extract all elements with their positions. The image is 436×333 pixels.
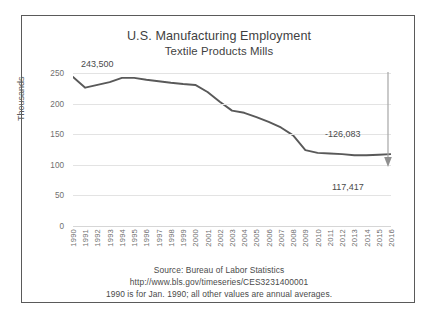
x-tick-1996: 1996 (142, 229, 151, 247)
annotation-change-value: -126,083 (325, 129, 361, 139)
x-tick-2001: 2001 (204, 229, 213, 247)
x-tick-1994: 1994 (118, 229, 127, 247)
x-tick-1991: 1991 (81, 229, 90, 247)
y-tick-100: 100 (24, 160, 64, 169)
series-line-textile-products-mills (73, 73, 391, 226)
annotation-start-value: 243,500 (81, 59, 114, 69)
x-tick-2011: 2011 (326, 229, 335, 246)
chart-frame: U.S. Manufacturing Employment Textile Pr… (21, 15, 415, 303)
x-tick-2004: 2004 (240, 229, 249, 247)
x-tick-2003: 2003 (228, 229, 237, 247)
x-tick-2012: 2012 (338, 229, 347, 247)
x-tick-2016: 2016 (387, 229, 396, 247)
gridline-200 (73, 104, 391, 105)
x-tick-2014: 2014 (363, 229, 372, 247)
y-tick-200: 200 (24, 99, 64, 108)
chart-subtitle: Textile Products Mills (22, 45, 416, 57)
x-tick-2015: 2015 (375, 229, 384, 247)
gridline-250 (73, 73, 391, 74)
x-tick-2007: 2007 (277, 229, 286, 247)
x-axis-tick-labels: 1990199119921993199419951996199719981999… (73, 229, 391, 269)
x-tick-2002: 2002 (216, 229, 225, 247)
x-tick-2013: 2013 (350, 229, 359, 247)
y-axis-tick-labels: 250 200 150 100 50 0 (22, 73, 68, 226)
footnote-source: Source: Bureau of Labor Statistics (22, 264, 416, 276)
gridline-100 (73, 165, 391, 166)
x-tick-2008: 2008 (289, 229, 298, 247)
footnote-block: Source: Bureau of Labor Statistics http:… (22, 264, 416, 300)
x-tick-1995: 1995 (130, 229, 139, 247)
page-title: U.S. Manufacturing Employment (22, 29, 416, 43)
plot-area (73, 73, 391, 226)
x-tick-2010: 2010 (314, 229, 323, 247)
x-tick-1992: 1992 (93, 229, 102, 247)
footnote-url: http://www.bls.gov/timeseries/CES3231400… (22, 276, 416, 288)
gridline-50 (73, 195, 391, 196)
x-tick-1993: 1993 (106, 229, 115, 247)
x-tick-2009: 2009 (301, 229, 310, 247)
y-tick-50: 50 (24, 191, 64, 200)
y-tick-250: 250 (24, 69, 64, 78)
x-tick-2000: 2000 (191, 229, 200, 247)
x-tick-1999: 1999 (179, 229, 188, 247)
chart-page: U.S. Manufacturing Employment Textile Pr… (0, 0, 436, 333)
x-tick-1997: 1997 (155, 229, 164, 247)
footnote-note: 1990 is for Jan. 1990; all other values … (22, 288, 416, 300)
annotation-end-value: 117,417 (332, 182, 364, 192)
x-tick-2006: 2006 (265, 229, 274, 247)
series-polyline (73, 77, 391, 155)
y-tick-150: 150 (24, 130, 64, 139)
y-tick-0: 0 (24, 222, 64, 231)
x-tick-1990: 1990 (69, 229, 78, 247)
change-arrow-icon (379, 72, 405, 172)
x-tick-2005: 2005 (252, 229, 261, 247)
x-tick-1998: 1998 (167, 229, 176, 247)
axis-baseline (73, 226, 391, 227)
chart-title-block: U.S. Manufacturing Employment Textile Pr… (22, 29, 416, 57)
